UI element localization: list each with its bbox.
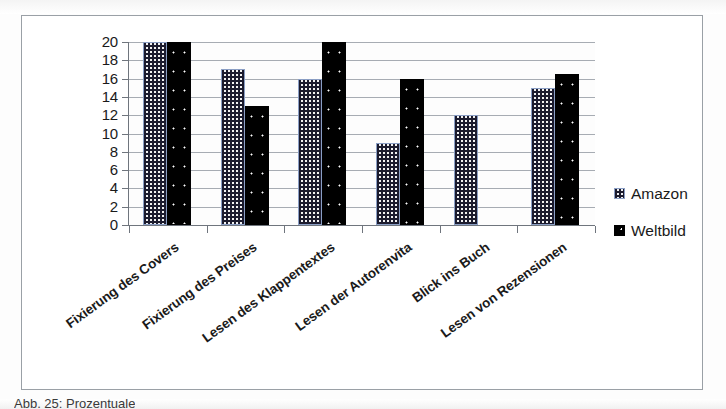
y-axis-tick [122, 170, 129, 171]
y-axis-tick [122, 97, 129, 98]
y-axis-tick [122, 225, 129, 226]
scan-shade-top [0, 0, 726, 14]
legend-label-amazon: Amazon [631, 186, 688, 202]
bar-group [129, 42, 207, 225]
bar-amazon[interactable] [531, 88, 555, 225]
y-axis-tick-label: 6 [110, 162, 118, 177]
bar-amazon[interactable] [454, 115, 478, 225]
y-axis-tick [122, 115, 129, 116]
x-axis-tick [440, 226, 441, 233]
bar-weltbild[interactable] [245, 106, 269, 225]
chart-frame: 20181614121086420 Fixierung des CoversFi… [21, 15, 703, 390]
x-axis-tick [207, 226, 208, 233]
bar-amazon[interactable] [376, 143, 400, 225]
bar-amazon[interactable] [143, 42, 167, 225]
y-axis-tick-label: 14 [102, 89, 118, 104]
bar-group [284, 42, 362, 225]
x-axis-tick [517, 226, 518, 233]
y-axis-tick-label: 12 [102, 107, 118, 122]
y-axis-tick [122, 152, 129, 153]
y-axis-tick [122, 42, 129, 43]
x-axis-tick [284, 226, 285, 233]
bar-group [440, 42, 518, 225]
y-axis-tick [122, 188, 129, 189]
y-axis-tick [122, 79, 129, 80]
legend-label-weltbild: Weltbild [631, 223, 686, 239]
y-axis-tick-label: 0 [110, 217, 118, 232]
figure-caption: Abb. 25: Prozentuale [14, 396, 135, 409]
legend-item-amazon[interactable]: Amazon [614, 186, 714, 202]
y-axis-tick [122, 60, 129, 61]
y-axis-tick [122, 134, 129, 135]
x-axis-tick [595, 226, 596, 233]
y-axis-tick [122, 207, 129, 208]
x-axis-tick [129, 226, 130, 233]
bar-amazon[interactable] [221, 69, 245, 225]
y-axis-tick-label: 18 [102, 52, 118, 67]
y-axis-tick-label: 20 [102, 34, 118, 49]
legend-item-weltbild[interactable]: Weltbild [614, 223, 714, 239]
bar-group [362, 42, 440, 225]
plot-area [129, 42, 595, 225]
legend-swatch-amazon-icon [614, 188, 625, 199]
bar-group [207, 42, 285, 225]
bar-weltbild[interactable] [167, 42, 191, 225]
y-axis-tick-label: 8 [110, 144, 118, 159]
y-axis-tick-label: 2 [110, 199, 118, 214]
y-axis-tick-label: 4 [110, 180, 118, 195]
y-axis-tick-label: 10 [102, 126, 118, 141]
x-axis-tick [362, 226, 363, 233]
legend-swatch-weltbild-icon [614, 225, 625, 236]
bar-weltbild[interactable] [322, 42, 346, 225]
chart-legend: Amazon Weltbild [614, 186, 714, 259]
bar-weltbild[interactable] [555, 74, 579, 225]
bar-group [517, 42, 595, 225]
scanned-page: 20181614121086420 Fixierung des CoversFi… [0, 0, 726, 409]
bar-weltbild[interactable] [400, 79, 424, 225]
y-axis-tick-label: 16 [102, 71, 118, 86]
bar-amazon[interactable] [298, 79, 322, 225]
